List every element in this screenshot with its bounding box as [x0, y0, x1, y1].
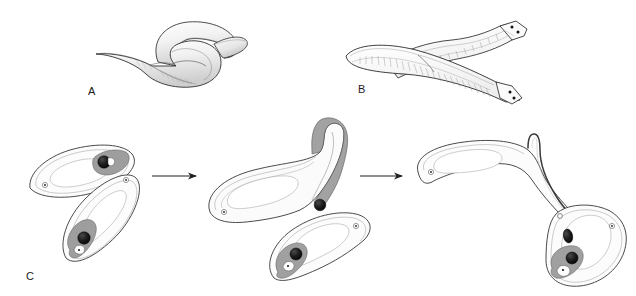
- panel-label-b: B: [358, 84, 366, 95]
- panel-c-stage-1: [30, 145, 140, 261]
- panel-b-head-front: [496, 82, 522, 104]
- panel-c-stage-2: [209, 118, 370, 281]
- illustration-svg: [0, 0, 636, 296]
- stage2-worm-donor: [209, 118, 348, 223]
- copulatory-bulb: [566, 252, 578, 264]
- panel-label-c: C: [26, 271, 34, 282]
- copulatory-bulb: [314, 199, 326, 211]
- eyespot-pupil: [125, 179, 127, 181]
- figure-canvas: A B C: [0, 0, 636, 296]
- stage2-worm-recipient: [270, 213, 370, 281]
- eyespot-pupil: [611, 225, 613, 227]
- panel-label-a: A: [88, 86, 96, 97]
- puncture-site: [558, 214, 563, 219]
- eyespot-icon: [509, 91, 512, 94]
- stage3-worm-donor: [417, 134, 572, 216]
- eyespot-pupil: [355, 225, 357, 227]
- eyespot-pupil: [44, 184, 46, 186]
- stage3-worm-recipient: [546, 205, 626, 286]
- panel-b-group: [346, 21, 527, 104]
- copulatory-bulb: [78, 232, 90, 244]
- copulatory-bulb: [290, 248, 302, 260]
- panel-c-stage-3: [417, 134, 626, 286]
- panel-a-group: [96, 22, 247, 88]
- eyespot-icon: [511, 26, 514, 29]
- eyespot-pupil: [430, 171, 432, 173]
- eyespot-icon: [513, 97, 516, 100]
- eyespot-pupil: [223, 211, 225, 213]
- eyespot-icon: [517, 31, 520, 34]
